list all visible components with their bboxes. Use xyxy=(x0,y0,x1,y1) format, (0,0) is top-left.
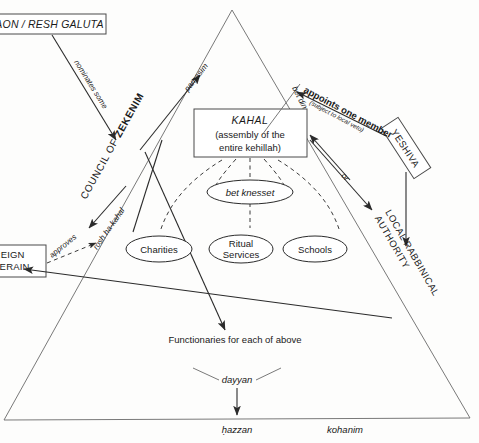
edge-approves: approves xyxy=(47,232,96,263)
edge-label-approves: approves xyxy=(48,232,79,259)
box-foreign-suzerain-line1: FOREIGN xyxy=(0,249,25,260)
box-kahal[interactable]: KAHAL (assembly of the entire kehillah) xyxy=(194,109,307,157)
kohanim-text: kohanim xyxy=(327,424,363,435)
edge-or: or xyxy=(310,140,372,210)
diagram-canvas: GAON / RESH GALUTA nominates some COUNCI… xyxy=(0,0,479,443)
label-kohanim: kohanim xyxy=(327,424,363,435)
hazzan-text: ḥazzan xyxy=(222,424,253,435)
box-gaon-resh-galuta-label: GAON / RESH GALUTA xyxy=(0,18,104,30)
box-kahal-line3: entire kehillah) xyxy=(219,142,281,153)
box-kahal-line2: (assembly of the xyxy=(215,129,285,140)
box-kahal-line3-text: entire kehillah) xyxy=(219,142,281,153)
label-dayyan: dayyan xyxy=(193,368,281,415)
box-gaon-resh-galuta[interactable]: GAON / RESH GALUTA xyxy=(0,14,106,34)
council-bold: ZEKENIM xyxy=(112,91,145,139)
edge-label-nominates-some: nominates some xyxy=(72,58,109,110)
label-functionaries: Functionaries for each of above xyxy=(168,334,301,345)
box-kahal-line1: KAHAL xyxy=(232,114,269,126)
edge-gaon-to-council: nominates some xyxy=(52,35,116,140)
box-foreign-suzerain-line2: SUZERAIN xyxy=(0,261,30,272)
edge-label-appoints-one-member: appoints one member xyxy=(302,84,395,140)
edge-suzerain-to-local-rabbinical xyxy=(24,269,392,318)
ellipse-ritual-services[interactable]: Ritual Services xyxy=(209,235,273,263)
ellipse-schools-label: Schools xyxy=(298,244,332,255)
ellipse-bet-knesset-label: bet knesset xyxy=(226,187,275,198)
label-hazzan: ḥazzan xyxy=(222,424,253,435)
ellipse-ritual-services-line1: Ritual xyxy=(229,238,253,249)
edge-cross-to-functionaries xyxy=(133,140,162,232)
edge-label-parnasim: parnasim xyxy=(182,61,210,94)
ellipse-charities-label: Charities xyxy=(140,244,178,255)
dayyan-text: dayyan xyxy=(222,374,253,385)
functionaries-text: Functionaries for each of above xyxy=(168,334,301,345)
svg-text:COUNCIL OF ZEKENIM: COUNCIL OF ZEKENIM xyxy=(78,91,146,201)
kehillah-structure-diagram: GAON / RESH GALUTA nominates some COUNCI… xyxy=(0,0,479,443)
label-council-of-zekenim: COUNCIL OF ZEKENIM xyxy=(78,91,146,201)
label-local-rabbinical-authority: LOCAL RABBINICAL AUTHORITY xyxy=(373,208,442,304)
ellipse-bet-knesset[interactable]: bet knesset xyxy=(207,180,293,204)
edge-label-or: or xyxy=(339,171,351,183)
edge-label-rosh-ha-kahal: rosh ha-kahal xyxy=(91,206,126,251)
ellipse-charities[interactable]: Charities xyxy=(126,236,192,262)
box-foreign-suzerain[interactable]: FOREIGN SUZERAIN xyxy=(0,245,46,277)
ellipse-schools[interactable]: Schools xyxy=(283,236,347,262)
edge-appoints-one-member: appoints one member (subject to local ve… xyxy=(297,84,395,140)
council-prefix: COUNCIL OF xyxy=(78,134,122,201)
edge-rosh-ha-kahal: rosh ha-kahal xyxy=(89,186,127,251)
ellipse-ritual-services-line2: Services xyxy=(223,249,260,260)
